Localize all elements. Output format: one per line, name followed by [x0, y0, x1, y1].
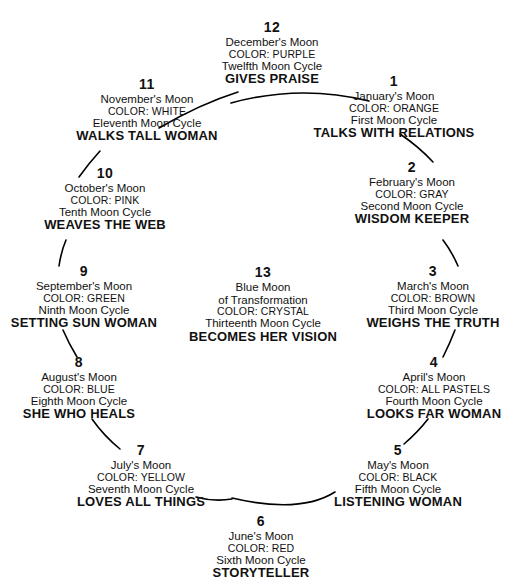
moon-title: TALKS WITH RELATIONS — [314, 126, 475, 140]
moon-name: January's Moon — [314, 90, 475, 102]
moon-entry-11: 11 November's Moon COLOR: WHITE Eleventh… — [76, 77, 217, 143]
moon-number: 11 — [76, 77, 217, 92]
moon-entry-7: 7 July's Moon COLOR: YELLOW Seventh Moon… — [77, 443, 205, 509]
connector-10-to-9 — [59, 240, 66, 266]
moon-color: COLOR: BLUE — [23, 384, 135, 395]
moon-title: SETTING SUN WOMAN — [11, 316, 157, 330]
moon-number: 10 — [44, 166, 166, 181]
moon-color: COLOR: CRYSTAL — [189, 306, 337, 317]
moon-name: March's Moon — [366, 280, 499, 292]
moon-color: COLOR: ALL PASTELS — [367, 384, 501, 395]
moon-name: December's Moon — [222, 36, 322, 48]
moon-title: LOVES ALL THINGS — [77, 495, 205, 509]
moon-number: 13 — [189, 265, 337, 280]
moon-name: April's Moon — [367, 371, 501, 383]
moon-title: LOOKS FAR WOMAN — [367, 407, 501, 421]
moon-title: SHE WHO HEALS — [23, 407, 135, 421]
moon-title: WISDOM KEEPER — [355, 212, 470, 226]
moon-number: 8 — [23, 355, 135, 370]
moon-number: 3 — [366, 264, 499, 279]
moon-number: 2 — [355, 160, 470, 175]
moon-cycle-wheel-diagram: 12 December's Moon COLOR: PURPLE Twelfth… — [0, 0, 526, 587]
moon-name: June's Moon — [213, 530, 310, 542]
moon-number: 5 — [334, 443, 462, 458]
moon-color: COLOR: YELLOW — [77, 472, 205, 483]
moon-number: 12 — [222, 20, 322, 35]
moon-name: Blue Moon — [189, 281, 337, 293]
moon-number: 9 — [11, 264, 157, 279]
moon-name: October's Moon — [44, 182, 166, 194]
connector-2-to-3 — [443, 240, 458, 266]
moon-title: STORYTELLER — [213, 566, 310, 580]
moon-title: BECOMES HER VISION — [189, 330, 337, 344]
connector-9-to-8 — [63, 330, 77, 357]
moon-entry-2: 2 February's Moon COLOR: GRAY Second Moo… — [355, 160, 470, 226]
moon-color: COLOR: ORANGE — [314, 103, 475, 114]
moon-color: COLOR: GRAY — [355, 189, 470, 200]
moon-title: WALKS TALL WOMAN — [76, 129, 217, 143]
moon-entry-8: 8 August's Moon COLOR: BLUE Eighth Moon … — [23, 355, 135, 421]
moon-entry-10: 10 October's Moon COLOR: PINK Tenth Moon… — [44, 166, 166, 232]
moon-name: August's Moon — [23, 371, 135, 383]
moon-entry-1: 1 January's Moon COLOR: ORANGE First Moo… — [314, 74, 475, 140]
connector-4-to-5 — [404, 419, 428, 444]
moon-number: 1 — [314, 74, 475, 89]
moon-color: COLOR: BLACK — [334, 472, 462, 483]
moon-color: COLOR: BROWN — [366, 293, 499, 304]
connector-5-to-6 — [232, 492, 335, 505]
moon-color: COLOR: PURPLE — [222, 49, 322, 60]
moon-color: COLOR: WHITE — [76, 106, 217, 117]
moon-entry-12: 12 December's Moon COLOR: PURPLE Twelfth… — [222, 20, 322, 86]
moon-entry-13: 13 Blue Moon of Transformation COLOR: CR… — [189, 265, 337, 344]
moon-color: COLOR: PINK — [44, 195, 166, 206]
connector-3-to-4 — [443, 330, 455, 357]
moon-cycle: Thirteenth Moon Cycle — [189, 317, 337, 329]
moon-name: February's Moon — [355, 176, 470, 188]
moon-entry-3: 3 March's Moon COLOR: BROWN Third Moon C… — [366, 264, 499, 330]
moon-name: September's Moon — [11, 280, 157, 292]
moon-title: WEAVES THE WEB — [44, 218, 166, 232]
moon-number: 4 — [367, 355, 501, 370]
moon-name: July's Moon — [77, 459, 205, 471]
moon-title: LISTENING WOMAN — [334, 495, 462, 509]
moon-title: GIVES PRAISE — [222, 72, 322, 86]
moon-entry-5: 5 May's Moon COLOR: BLACK Fifth Moon Cyc… — [334, 443, 462, 509]
moon-name: May's Moon — [334, 459, 462, 471]
moon-number: 6 — [213, 514, 310, 529]
moon-entry-9: 9 September's Moon COLOR: GREEN Ninth Mo… — [11, 264, 157, 330]
moon-color: COLOR: RED — [213, 543, 310, 554]
moon-entry-6: 6 June's Moon COLOR: RED Sixth Moon Cycl… — [213, 514, 310, 580]
moon-entry-4: 4 April's Moon COLOR: ALL PASTELS Fourth… — [367, 355, 501, 421]
moon-number: 7 — [77, 443, 205, 458]
moon-name: November's Moon — [76, 93, 217, 105]
moon-color: COLOR: GREEN — [11, 293, 157, 304]
moon-title: WEIGHS THE TRUTH — [366, 316, 499, 330]
